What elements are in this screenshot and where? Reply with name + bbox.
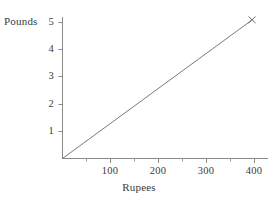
y-tick-label-4: 4: [38, 44, 54, 55]
y-axis-title: Pounds: [4, 16, 38, 27]
y-tick-label-1: 1: [38, 126, 54, 137]
y-tick-label-2: 2: [38, 99, 54, 110]
x-tick-label-200: 200: [143, 166, 173, 177]
x-axis-title: Rupees: [0, 182, 278, 193]
y-tick-label-5: 5: [38, 17, 54, 28]
y-tick-label-3: 3: [38, 71, 54, 82]
x-tick-label-400: 400: [239, 166, 269, 177]
x-tick-label-100: 100: [95, 166, 125, 177]
line-chart: Pounds Rupees 5 4 3 2 1 100 200 300 400: [0, 0, 278, 201]
x-tick-label-300: 300: [191, 166, 221, 177]
